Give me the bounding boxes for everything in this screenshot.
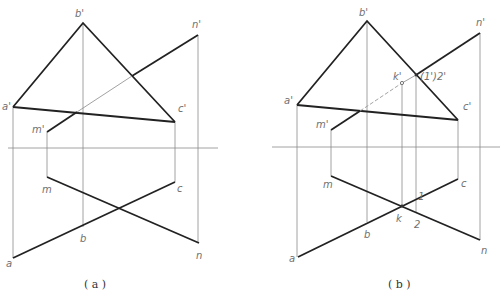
label-k: k (396, 213, 403, 224)
line-mn-front-seg2 (77, 76, 132, 112)
caption-a: ( a ) (84, 278, 106, 291)
label-1-2-prime: (1')2' (420, 71, 446, 82)
label-b-prime: b' (359, 7, 368, 18)
caption-b: ( b ) (388, 278, 411, 291)
triangle-front-ab-bc (13, 23, 175, 122)
label-b: b (80, 233, 86, 244)
panel-b: b' a' c' m' n' k' (1')2' m b c a n k 1 2… (272, 7, 500, 291)
line-mn-front-seg3 (132, 35, 198, 76)
label-b-prime: b' (75, 8, 84, 19)
label-a-prime: a' (284, 95, 293, 106)
point-k (401, 205, 404, 208)
label-c: c (177, 183, 183, 194)
triangle-top-ac (13, 182, 175, 258)
label-a: a (6, 258, 12, 269)
line-mn-front-hidden (360, 83, 402, 111)
label-k-prime: k' (393, 71, 402, 82)
label-a-prime: a' (2, 101, 11, 112)
point-1-2-prime (415, 74, 418, 77)
panel-a: b' a' c' m' n' m b c a n ( a ) (2, 8, 218, 291)
label-b: b (364, 229, 370, 240)
label-c: c (461, 178, 467, 189)
line-mn-front-seg1 (47, 112, 77, 132)
label-c-prime: c' (463, 101, 471, 112)
label-m-prime: m' (316, 119, 329, 130)
label-n: n (196, 250, 202, 261)
label-m: m (42, 184, 52, 195)
label-2: 2 (414, 219, 420, 230)
label-n: n (481, 245, 487, 256)
label-n-prime: n' (476, 17, 485, 28)
label-a: a (289, 253, 295, 264)
label-1: 1 (418, 191, 424, 202)
label-n-prime: n' (192, 19, 201, 30)
triangle-front-ac (297, 105, 458, 120)
triangle-front-ac (13, 107, 175, 122)
projection-diagram: b' a' c' m' n' m b c a n ( a ) (0, 0, 504, 296)
line-mn-front-visible-1 (331, 111, 360, 130)
triangle-top-ac (298, 179, 458, 257)
line-mn-front-visible-2 (416, 33, 480, 75)
label-m-prime: m' (32, 124, 45, 135)
label-m: m (323, 179, 333, 190)
label-c-prime: c' (178, 103, 186, 114)
line-mn-front-k-segment (402, 75, 416, 83)
